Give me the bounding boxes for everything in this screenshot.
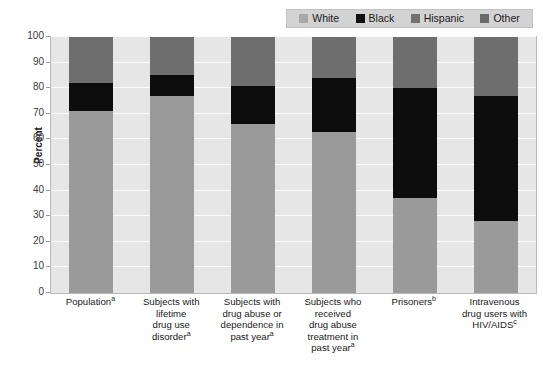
bar-segment-black [312, 78, 356, 132]
gridline [51, 241, 536, 242]
stacked-bar[interactable] [69, 37, 113, 293]
legend-item-white: White [299, 13, 339, 24]
bar-segment-hispanic [69, 52, 113, 83]
y-tick-label: 50 [18, 159, 44, 169]
y-tick-label: 80 [18, 82, 44, 92]
bar-segment-black [474, 96, 518, 221]
y-tick-label: 40 [18, 185, 44, 195]
bar-segment-white [231, 124, 275, 293]
stacked-bar[interactable] [312, 37, 356, 293]
bar-segment-black [231, 86, 275, 124]
plot-area [50, 36, 537, 294]
chart-figure: White Black Hispanic Other Percent 01020… [0, 0, 543, 367]
bar-segment-white [393, 198, 437, 293]
bar-segment-other [231, 37, 275, 52]
bar-group [150, 37, 194, 293]
gridline [51, 266, 536, 267]
y-tick-label: 30 [18, 210, 44, 220]
stacked-bar[interactable] [231, 37, 275, 293]
x-axis-labels: PopulationaSubjects withlifetimedrug use… [50, 296, 535, 366]
x-tick-label: Intravenousdrug users withHIV/AIDSc [447, 296, 542, 331]
bar-group [312, 37, 356, 293]
y-tick-label: 20 [18, 236, 44, 246]
bar-segment-hispanic [393, 50, 437, 88]
bar-segment-black [69, 83, 113, 111]
stacked-bar[interactable] [393, 37, 437, 293]
legend-label-hispanic: Hispanic [424, 13, 464, 24]
bar-segment-black [393, 88, 437, 198]
legend-item-black: Black [356, 13, 395, 24]
y-tick-label: 70 [18, 108, 44, 118]
legend-item-hispanic: Hispanic [411, 13, 464, 24]
gridline [51, 62, 536, 63]
gridline [51, 138, 536, 139]
bar-segment-hispanic [150, 50, 194, 76]
legend-label-white: White [312, 13, 339, 24]
bar-group [69, 37, 113, 293]
bar-segment-other [69, 37, 113, 52]
bar-segment-hispanic [312, 50, 356, 78]
chart-legend: White Black Hispanic Other [286, 9, 533, 28]
gridline [51, 87, 536, 88]
gridline [51, 190, 536, 191]
bar-segment-white [312, 132, 356, 293]
legend-item-other: Other [480, 13, 519, 24]
bar-segment-hispanic [231, 52, 275, 85]
bar-segment-white [150, 96, 194, 293]
bar-segment-other [393, 37, 437, 50]
y-tick-label: 60 [18, 133, 44, 143]
legend-swatch-white [299, 14, 308, 23]
bar-segment-white [69, 111, 113, 293]
gridline [51, 215, 536, 216]
stacked-bar[interactable] [474, 37, 518, 293]
legend-swatch-other [480, 14, 489, 23]
bar-segment-black [150, 75, 194, 95]
bar-group [474, 37, 518, 293]
bar-segment-other [312, 37, 356, 50]
stacked-bar[interactable] [150, 37, 194, 293]
bar-group [231, 37, 275, 293]
legend-swatch-black [356, 14, 365, 23]
bar-segment-hispanic [474, 52, 518, 96]
bar-segment-other [474, 37, 518, 52]
legend-swatch-hispanic [411, 14, 420, 23]
legend-label-other: Other [493, 13, 519, 24]
legend-label-black: Black [369, 13, 395, 24]
gridline [51, 113, 536, 114]
gridline [51, 164, 536, 165]
bar-segment-other [150, 37, 194, 50]
y-tick-label: 100 [18, 31, 44, 41]
y-tick-label: 10 [18, 261, 44, 271]
bar-group [393, 37, 437, 293]
bar-segment-white [474, 221, 518, 293]
gridline [51, 36, 536, 37]
y-tick-label: 0 [18, 287, 44, 297]
y-tick-label: 90 [18, 57, 44, 67]
